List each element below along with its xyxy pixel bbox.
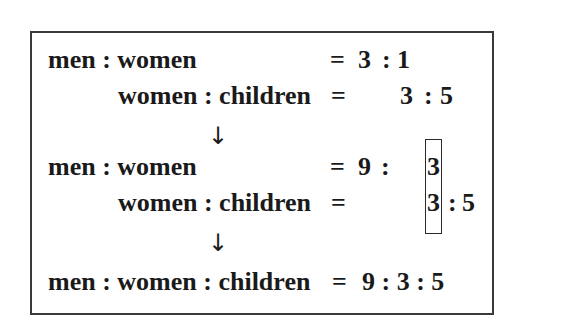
step2-row2-label: women : children	[118, 190, 311, 216]
step1-row1-label: men : women	[48, 47, 197, 73]
step1-row1-sep: :	[382, 47, 391, 73]
step1-row2-label: women : children	[118, 83, 311, 109]
step1-row2-sep: :	[424, 83, 433, 109]
step1-row2-b: 5	[440, 83, 453, 109]
step1-row1-b: 1	[397, 47, 410, 73]
down-arrow-icon: ↓	[208, 124, 228, 148]
step2-row2-equals: =	[331, 190, 346, 216]
step2-row1-label: men : women	[48, 154, 197, 180]
result-equals: =	[332, 269, 347, 295]
result-label: men : women : children	[48, 269, 310, 295]
step2-row1-sep: :	[381, 154, 390, 180]
step2-row2-b: 5	[462, 190, 475, 216]
step1-row1-equals: =	[330, 47, 345, 73]
step1-row2-a: 3	[400, 83, 413, 109]
result-value: 9 : 3 : 5	[362, 269, 444, 295]
step2-row2-sep: :	[448, 190, 457, 216]
step1-row2-equals: =	[331, 83, 346, 109]
step2-row1-equals: =	[330, 154, 345, 180]
down-arrow-icon: ↓	[208, 231, 228, 255]
step1-row1-a: 3	[358, 47, 371, 73]
common-term-highlight-box	[425, 139, 442, 234]
step2-row1-a: 9	[358, 154, 371, 180]
